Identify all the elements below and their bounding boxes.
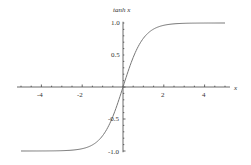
y-tick-label-1: 1.0 xyxy=(111,20,120,27)
x-tick-label-neg2: -2 xyxy=(77,92,83,99)
y-axis-label: tanh x xyxy=(113,7,130,14)
x-tick-label-2: 2 xyxy=(161,92,165,99)
tanh-plot xyxy=(0,0,251,165)
y-tick-label-0-5: 0.5 xyxy=(111,52,120,59)
x-tick-label-4: 4 xyxy=(202,92,206,99)
y-tick-label-neg1: -1.0 xyxy=(108,149,119,156)
x-tick-label-neg4: -4 xyxy=(37,92,43,99)
y-tick-label-neg0-5: -0.5 xyxy=(108,116,119,123)
x-axis-label: x xyxy=(234,85,237,92)
